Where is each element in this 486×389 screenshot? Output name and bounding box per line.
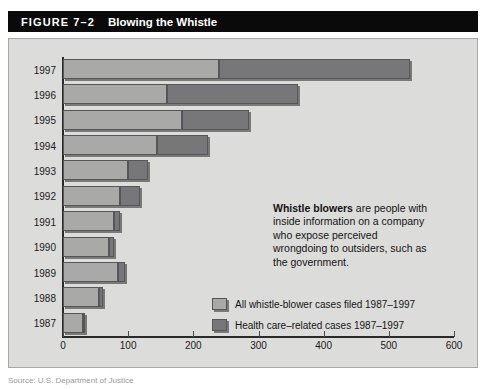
bar-row: 1996: [63, 82, 454, 107]
bar-stack-1989: [63, 262, 125, 282]
bar-segment-1993-health: [128, 160, 148, 180]
y-axis-label-1994: 1994: [34, 140, 56, 151]
bar-row: 1994: [63, 133, 454, 158]
x-tick-600: [454, 331, 455, 337]
bar-segment-1995-all: [63, 110, 182, 130]
bar-segment-1997-health: [219, 59, 410, 79]
bar-segment-1996-all: [63, 84, 167, 104]
y-axis-label-1991: 1991: [34, 216, 56, 227]
y-axis-label-1997: 1997: [34, 64, 56, 75]
x-tick-label-600: 600: [446, 340, 463, 351]
bar-segment-1995-health: [182, 110, 249, 130]
x-tick-label-0: 0: [60, 340, 66, 351]
x-tick-label-200: 200: [185, 340, 202, 351]
bar-stack-1997: [63, 59, 410, 79]
y-axis-label-1992: 1992: [34, 191, 56, 202]
legend-label-health_care: Health care–related cases 1987–1997: [235, 320, 404, 331]
bar-stack-1988: [63, 287, 103, 307]
x-tick-label-100: 100: [120, 340, 137, 351]
y-axis-label-1993: 1993: [34, 166, 56, 177]
bar-stack-1992: [63, 186, 140, 206]
bar-stack-1995: [63, 110, 249, 130]
bar-stack-1993: [63, 160, 148, 180]
bar-segment-1992-health: [120, 186, 140, 206]
annotation-text: Whistle blowers are people with inside i…: [273, 202, 428, 269]
legend-item-all_cases: All whistle-blower cases filed 1987–1997: [212, 298, 415, 310]
legend-swatch-all_cases: [212, 298, 227, 310]
bar-segment-1989-all: [63, 262, 118, 282]
bar-stack-1996: [63, 84, 298, 104]
figure-title-bar: FIGURE 7–2 Blowing the Whistle: [8, 11, 478, 32]
bar-stack-1987: [63, 313, 85, 333]
x-tick-label-300: 300: [250, 340, 267, 351]
source-note: Source: U.S. Department of Justice: [8, 376, 133, 385]
bar-segment-1994-all: [63, 135, 157, 155]
y-axis-label-1995: 1995: [34, 115, 56, 126]
bar-row: 1997: [63, 57, 454, 82]
y-axis-label-1996: 1996: [34, 90, 56, 101]
legend-label-all_cases: All whistle-blower cases filed 1987–1997: [235, 299, 415, 310]
bar-segment-1992-all: [63, 186, 120, 206]
bar-segment-1988-health: [99, 287, 104, 307]
figure-container: FIGURE 7–2 Blowing the Whistle 010020030…: [0, 0, 486, 389]
bar-segment-1994-health: [157, 135, 207, 155]
bar-stack-1990: [63, 237, 114, 257]
annotation-lead: Whistle blowers: [273, 202, 353, 214]
bar-segment-1990-health: [109, 237, 114, 257]
y-axis-label-1988: 1988: [34, 292, 56, 303]
y-axis-label-1987: 1987: [34, 318, 56, 329]
figure-title: Blowing the Whistle: [108, 16, 217, 28]
legend-swatch-health_care: [212, 319, 227, 331]
figure-number-label: FIGURE 7–2: [21, 16, 95, 28]
chart-panel: 0100200300400500600 19971996199519941993…: [8, 38, 478, 368]
bar-segment-1996-health: [167, 84, 297, 104]
bar-segment-1988-all: [63, 287, 99, 307]
x-tick-label-400: 400: [315, 340, 332, 351]
bar-segment-1997-all: [63, 59, 219, 79]
x-tick-label-500: 500: [380, 340, 397, 351]
bar-segment-1989-health: [118, 262, 125, 282]
y-axis-label-1990: 1990: [34, 242, 56, 253]
y-axis-label-1989: 1989: [34, 267, 56, 278]
bar-segment-1993-all: [63, 160, 128, 180]
bar-segment-1987-all: [63, 313, 83, 333]
bar-segment-1991-all: [63, 211, 114, 231]
bar-segment-1991-health: [114, 211, 121, 231]
bar-row: 1993: [63, 158, 454, 183]
legend-item-health_care: Health care–related cases 1987–1997: [212, 319, 415, 331]
bar-row: 1995: [63, 108, 454, 133]
bar-segment-1987-health: [83, 313, 85, 333]
chart-legend: All whistle-blower cases filed 1987–1997…: [212, 298, 415, 340]
bar-segment-1990-all: [63, 237, 109, 257]
bar-stack-1991: [63, 211, 120, 231]
bar-stack-1994: [63, 135, 208, 155]
